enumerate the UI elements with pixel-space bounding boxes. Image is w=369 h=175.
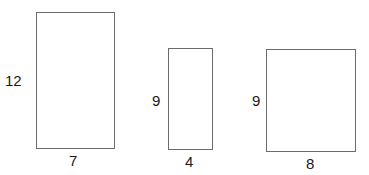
rectangle-2 [168,48,213,150]
rectangle-1-height-label: 12 [5,73,22,88]
rectangle-1 [36,12,115,149]
rectangle-3 [266,49,356,152]
rectangle-1-width-label: 7 [69,153,77,168]
rectangle-3-height-label: 9 [252,93,260,108]
rectangle-2-height-label: 9 [152,93,160,108]
rectangle-3-width-label: 8 [306,156,314,171]
rectangle-2-width-label: 4 [185,154,193,169]
